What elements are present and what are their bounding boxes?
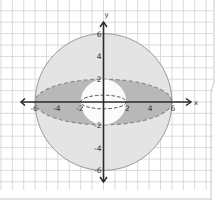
y-tick-label: -6 <box>94 166 102 175</box>
y-tick-label: 2 <box>97 75 102 84</box>
y-tick-label: -4 <box>94 144 102 153</box>
y-axis-label: y <box>105 11 109 19</box>
x-axis-label: x <box>194 99 198 107</box>
x-tick-label: -6 <box>30 104 38 113</box>
y-tick-label: 4 <box>97 52 102 61</box>
y-tick-label: 6 <box>97 30 102 39</box>
y-tick-label: -2 <box>94 121 102 130</box>
graph-paper: -6-4-2246 642-2-4-6 x y <box>0 0 219 203</box>
x-tick-label: 2 <box>125 104 130 113</box>
x-tick-label: 6 <box>171 104 176 113</box>
spherical-shell-diagram: -6-4-2246 642-2-4-6 x y <box>0 0 219 203</box>
x-tick-label: -4 <box>53 104 61 113</box>
x-tick-label: -2 <box>76 104 84 113</box>
x-tick-label: 4 <box>148 104 153 113</box>
